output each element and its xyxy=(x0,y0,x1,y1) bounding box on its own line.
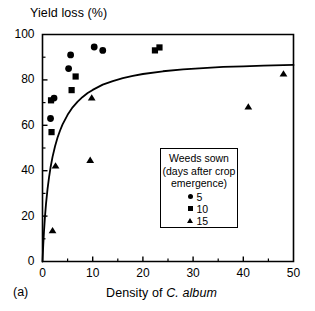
square-data-point xyxy=(73,73,79,79)
triangle-data-point xyxy=(280,70,288,76)
legend-title-line-2: (days after crop xyxy=(161,165,237,178)
x-tick-label: 20 xyxy=(128,266,158,280)
triangle-data-point xyxy=(86,157,94,163)
legend-entry: 5 xyxy=(161,191,237,203)
y-tick-label: 20 xyxy=(7,209,35,223)
circle-marker-glyph xyxy=(188,194,193,199)
legend-entry: 10 xyxy=(161,203,237,215)
square-marker-glyph xyxy=(188,206,193,211)
x-axis-title-prefix: Density of xyxy=(106,286,166,300)
y-tick-label: 40 xyxy=(7,163,35,177)
x-axis-title-species: C. album xyxy=(166,286,217,300)
circle-data-point xyxy=(65,65,72,72)
square-data-point xyxy=(48,129,54,135)
triangle-data-point xyxy=(49,227,57,233)
legend-entry-label: 10 xyxy=(197,203,219,215)
triangle-data-point xyxy=(88,94,96,100)
y-tick-label: 60 xyxy=(7,118,35,132)
circle-data-point xyxy=(99,47,106,54)
legend-title-line-3: emergence) xyxy=(161,177,237,190)
square-data-point xyxy=(69,87,75,93)
triangle-marker-glyph xyxy=(187,218,193,223)
panel-label: (a) xyxy=(13,285,28,299)
square-marker-icon xyxy=(180,206,197,211)
circle-data-point xyxy=(47,115,54,122)
circle-marker-icon xyxy=(180,194,197,199)
x-tick-label: 10 xyxy=(78,266,108,280)
x-axis-title: Density of C. album xyxy=(106,286,217,300)
x-tick-label: 0 xyxy=(28,266,58,280)
x-tick-label: 50 xyxy=(279,266,309,280)
square-data-point xyxy=(156,44,162,50)
figure-panel: Yield loss (%) 02040608010001020304050 W… xyxy=(0,0,315,311)
x-tick-label: 40 xyxy=(228,266,258,280)
circle-data-point xyxy=(91,44,98,51)
legend-title-line-1: Weeds sown xyxy=(161,152,237,165)
legend-entry: 15 xyxy=(161,215,237,227)
legend-entry-label: 5 xyxy=(197,191,219,203)
y-tick-label: 100 xyxy=(7,27,35,41)
triangle-marker-icon xyxy=(180,218,197,223)
square-data-point xyxy=(48,97,54,103)
legend-entry-list: 51015 xyxy=(161,191,237,227)
circle-data-point xyxy=(67,52,74,59)
triangle-data-point xyxy=(244,103,252,109)
plot-canvas xyxy=(0,0,315,311)
x-tick-label: 30 xyxy=(178,266,208,280)
legend: Weeds sown (days after crop emergence) 5… xyxy=(160,148,238,228)
y-tick-label: 80 xyxy=(7,72,35,86)
triangle-data-point xyxy=(52,162,60,168)
legend-entry-label: 15 xyxy=(197,215,219,227)
